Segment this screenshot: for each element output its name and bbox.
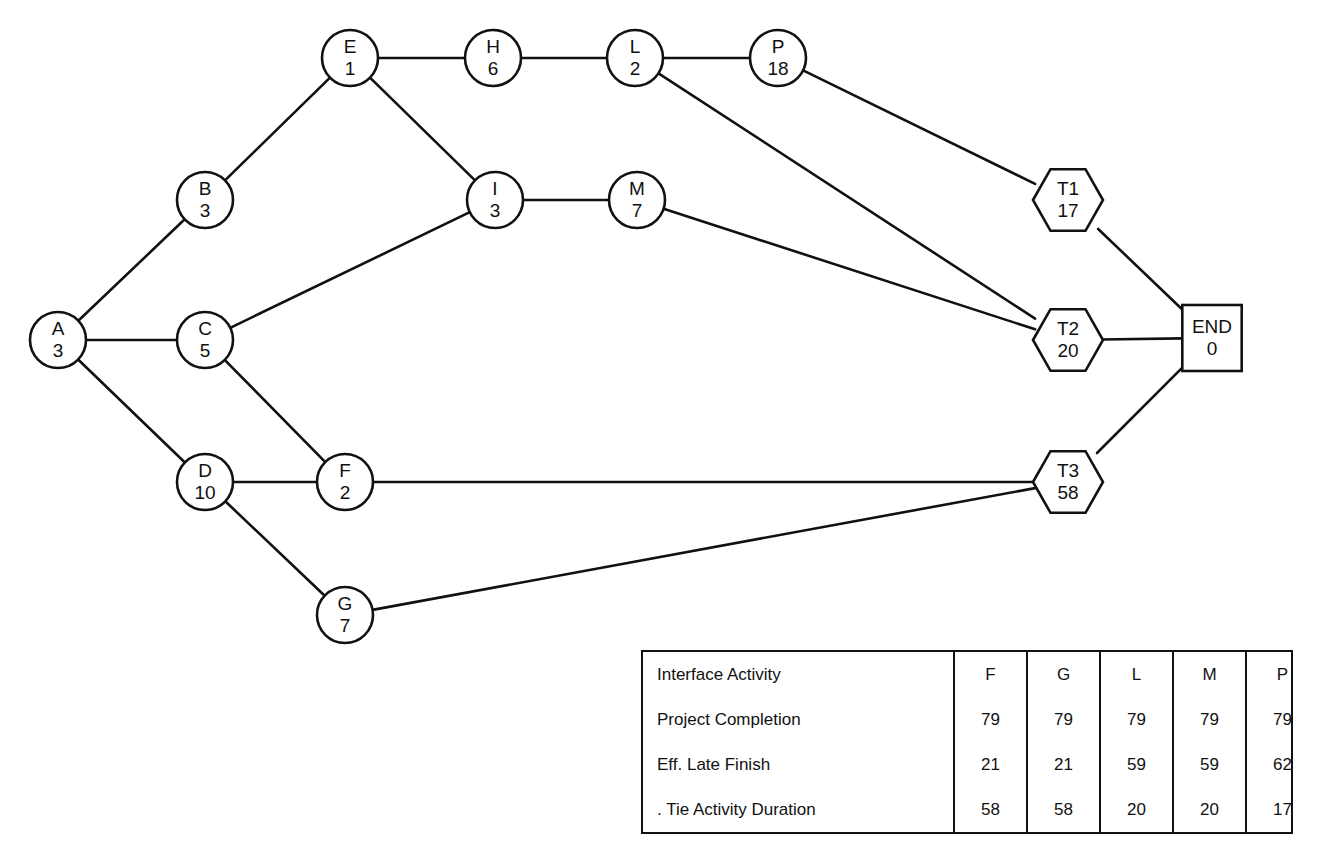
node-E[interactable]: E1	[322, 30, 378, 86]
table-row: Project Completion7979797979	[643, 697, 1318, 742]
node-T2[interactable]: T220	[1033, 309, 1103, 371]
edge-A-D	[78, 360, 185, 463]
node-duration-label-L: 2	[630, 58, 641, 79]
node-id-label-A: A	[52, 318, 65, 339]
node-duration-label-T3: 58	[1057, 482, 1078, 503]
edge-C-I	[230, 212, 470, 328]
table-cell: 62	[1246, 742, 1318, 787]
node-duration-label-T2: 20	[1057, 340, 1078, 361]
node-id-label-G: G	[338, 593, 353, 614]
node-F[interactable]: F2	[317, 454, 373, 510]
node-duration-label-B: 3	[200, 200, 211, 221]
table-row-label: Project Completion	[643, 697, 954, 742]
node-END[interactable]: END0	[1182, 305, 1241, 371]
edge-P-T1	[803, 70, 1035, 184]
table-cell: 20	[1173, 787, 1246, 832]
node-T1[interactable]: T117	[1033, 169, 1103, 231]
interface-activity-table: Interface ActivityFGLMPProject Completio…	[641, 650, 1293, 834]
node-C[interactable]: C5	[177, 312, 233, 368]
node-I[interactable]: I3	[467, 172, 523, 228]
edge-T1-END	[1098, 229, 1182, 310]
node-duration-label-END: 0	[1207, 338, 1218, 359]
node-id-label-B: B	[199, 178, 212, 199]
node-L[interactable]: L2	[607, 30, 663, 86]
table-cell: 58	[1027, 787, 1100, 832]
node-id-label-F: F	[339, 460, 351, 481]
table-cell: 79	[1100, 697, 1173, 742]
node-P[interactable]: P18	[750, 30, 806, 86]
table-cell: 58	[954, 787, 1027, 832]
summary-table-body: Interface ActivityFGLMPProject Completio…	[643, 652, 1318, 832]
table-cell: 79	[1246, 697, 1318, 742]
table-cell: 59	[1100, 742, 1173, 787]
table-row: . Tie Activity Duration5858202017	[643, 787, 1318, 832]
node-D[interactable]: D10	[177, 454, 233, 510]
node-duration-label-G: 7	[340, 615, 351, 636]
table-column-header: M	[1173, 652, 1246, 697]
edge-A-B	[78, 219, 184, 320]
edge-L-T2	[659, 73, 1036, 318]
node-id-label-I: I	[492, 178, 497, 199]
node-id-label-T1: T1	[1057, 178, 1079, 199]
node-id-label-H: H	[486, 36, 500, 57]
node-duration-label-E: 1	[345, 58, 356, 79]
table-cell: 17	[1246, 787, 1318, 832]
edge-G-T3	[373, 488, 1036, 610]
node-id-label-T3: T3	[1057, 460, 1079, 481]
edge-D-G	[225, 501, 324, 595]
edges-layer	[78, 58, 1182, 610]
node-id-label-L: L	[630, 36, 641, 57]
node-duration-label-F: 2	[340, 482, 351, 503]
node-A[interactable]: A3	[30, 312, 86, 368]
diagram-canvas: A3B3C5D10E1F2G7H6I3L2M7P18T117T220T358EN…	[0, 0, 1325, 863]
table-cell: 21	[1027, 742, 1100, 787]
node-T3[interactable]: T358	[1033, 451, 1103, 513]
node-id-label-C: C	[198, 318, 212, 339]
edge-M-T2	[664, 209, 1036, 330]
nodes-layer: A3B3C5D10E1F2G7H6I3L2M7P18T117T220T358EN…	[30, 30, 1242, 643]
table-column-header: G	[1027, 652, 1100, 697]
node-duration-label-P: 18	[767, 58, 788, 79]
table-cell: 20	[1100, 787, 1173, 832]
table-cell: 79	[954, 697, 1027, 742]
node-duration-label-T1: 17	[1057, 200, 1078, 221]
table-row: Eff. Late Finish2121595962	[643, 742, 1318, 787]
node-H[interactable]: H6	[465, 30, 521, 86]
node-B[interactable]: B3	[177, 172, 233, 228]
table-row: Interface ActivityFGLMP	[643, 652, 1318, 697]
table-cell: 79	[1027, 697, 1100, 742]
table-column-header: L	[1100, 652, 1173, 697]
node-M[interactable]: M7	[609, 172, 665, 228]
node-duration-label-D: 10	[194, 482, 215, 503]
edge-T3-END	[1097, 368, 1182, 453]
edge-T2-END	[1101, 338, 1182, 339]
edge-B-E	[225, 78, 330, 181]
node-duration-label-A: 3	[53, 340, 64, 361]
node-duration-label-C: 5	[200, 340, 211, 361]
table-row-label: Interface Activity	[643, 652, 954, 697]
table-column-header: P	[1246, 652, 1318, 697]
node-id-label-M: M	[629, 178, 645, 199]
node-id-label-END: END	[1192, 316, 1232, 337]
edge-C-F	[225, 360, 326, 462]
node-duration-label-H: 6	[488, 58, 499, 79]
node-G[interactable]: G7	[317, 587, 373, 643]
summary-table-grid: Interface ActivityFGLMPProject Completio…	[643, 652, 1318, 832]
node-id-label-T2: T2	[1057, 318, 1079, 339]
table-row-label: . Tie Activity Duration	[643, 787, 954, 832]
edge-E-I	[370, 78, 475, 181]
node-id-label-P: P	[772, 36, 785, 57]
table-cell: 21	[954, 742, 1027, 787]
node-duration-label-M: 7	[632, 200, 643, 221]
table-column-header: F	[954, 652, 1027, 697]
node-id-label-D: D	[198, 460, 212, 481]
node-duration-label-I: 3	[490, 200, 501, 221]
node-id-label-E: E	[344, 36, 357, 57]
table-row-label: Eff. Late Finish	[643, 742, 954, 787]
table-cell: 59	[1173, 742, 1246, 787]
table-cell: 79	[1173, 697, 1246, 742]
